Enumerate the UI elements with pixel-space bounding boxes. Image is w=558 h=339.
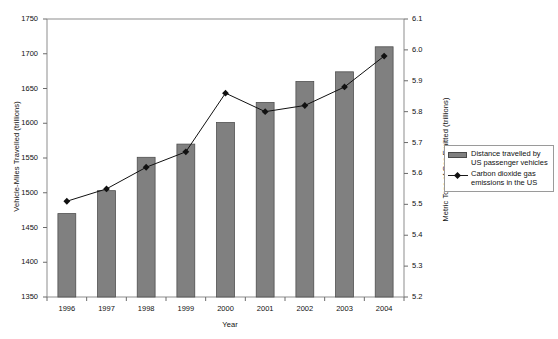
bar-swatch-icon bbox=[448, 150, 468, 164]
y-right-tick-6.0: 6.0 bbox=[412, 45, 442, 54]
y-right-tick-5.3: 5.3 bbox=[412, 261, 442, 270]
y-right-tick-5.2: 5.2 bbox=[412, 292, 442, 301]
legend-label-line: Carbon dioxide gas emissions in the US bbox=[471, 170, 537, 187]
y-left-tick-1700: 1700 bbox=[8, 49, 38, 58]
y-right-tick-5.4: 5.4 bbox=[412, 230, 442, 239]
bar-2004 bbox=[375, 47, 393, 297]
x-tick-1997: 1997 bbox=[87, 304, 127, 313]
bar-1999 bbox=[177, 144, 195, 297]
x-tick-1998: 1998 bbox=[126, 304, 166, 313]
chart-legend: Distance travelled by US passenger vehic… bbox=[444, 145, 554, 192]
y-right-tick-5.8: 5.8 bbox=[412, 107, 442, 116]
y-right-tick-5.9: 5.9 bbox=[412, 76, 442, 85]
legend-item-line: Carbon dioxide gas emissions in the US bbox=[448, 170, 550, 187]
line-point-2000 bbox=[222, 90, 229, 97]
combo-chart: Vehicle-Miles Travelled (trillions) Metr… bbox=[0, 0, 558, 339]
bar-1998 bbox=[137, 157, 155, 297]
bar-1996 bbox=[58, 214, 76, 297]
legend-bars-line2: US passenger vehicles bbox=[471, 158, 548, 167]
line-marker-icon bbox=[448, 170, 468, 184]
y-left-tick-1400: 1400 bbox=[8, 257, 38, 266]
y-left-tick-1450: 1450 bbox=[8, 223, 38, 232]
x-tick-1996: 1996 bbox=[47, 304, 87, 313]
bar-2001 bbox=[256, 102, 274, 297]
x-tick-2001: 2001 bbox=[245, 304, 285, 313]
x-tick-2004: 2004 bbox=[364, 304, 404, 313]
line-point-1996 bbox=[63, 198, 70, 205]
bar-2003 bbox=[336, 72, 354, 297]
y-left-tick-1600: 1600 bbox=[8, 118, 38, 127]
bar-1997 bbox=[98, 191, 116, 297]
x-axis-title: Year bbox=[190, 320, 270, 329]
y-left-tick-1350: 1350 bbox=[8, 292, 38, 301]
y-right-tick-5.5: 5.5 bbox=[412, 199, 442, 208]
legend-line-line2: emissions in the US bbox=[471, 178, 537, 187]
bar-2000 bbox=[217, 123, 235, 297]
y-left-tick-1500: 1500 bbox=[8, 188, 38, 197]
y-right-tick-5.6: 5.6 bbox=[412, 168, 442, 177]
x-tick-2003: 2003 bbox=[325, 304, 365, 313]
x-tick-2002: 2002 bbox=[285, 304, 325, 313]
y-left-tick-1550: 1550 bbox=[8, 153, 38, 162]
x-tick-1999: 1999 bbox=[166, 304, 206, 313]
y-right-tick-5.7: 5.7 bbox=[412, 138, 442, 147]
y-right-tick-6.1: 6.1 bbox=[412, 14, 442, 23]
y-left-tick-1750: 1750 bbox=[8, 14, 38, 23]
legend-label-bars: Distance travelled by US passenger vehic… bbox=[471, 150, 548, 167]
x-tick-2000: 2000 bbox=[206, 304, 246, 313]
bar-2002 bbox=[296, 82, 314, 297]
legend-item-bars: Distance travelled by US passenger vehic… bbox=[448, 150, 550, 167]
y-left-tick-1650: 1650 bbox=[8, 84, 38, 93]
